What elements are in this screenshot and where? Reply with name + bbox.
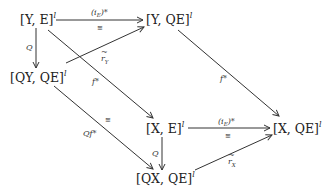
label-left-vertical: Q bbox=[26, 43, 33, 52]
svg-text:≅: ≅ bbox=[105, 116, 111, 124]
label-r-x: rX ~ bbox=[228, 151, 237, 168]
diagram-svg: [Y, E]l [Y, QE]l [QY, QE]l [X, E]l [X, Q… bbox=[0, 0, 324, 196]
node-X-E: [X, E]l bbox=[146, 120, 185, 136]
svg-text:≅: ≅ bbox=[225, 132, 231, 140]
svg-text:[QY, QE]l: [QY, QE]l bbox=[10, 69, 67, 85]
node-Y-QE: [Y, QE]l bbox=[146, 11, 193, 27]
label-f-star-left: f* bbox=[91, 77, 99, 86]
commutative-diagram: [Y, E]l [Y, QE]l [QY, QE]l [X, E]l [X, Q… bbox=[0, 0, 324, 196]
node-Y-E: [Y, E]l bbox=[20, 11, 56, 27]
node-QX-QE: [QX, QE]l bbox=[136, 170, 195, 186]
node-X-QE: [X, QE]l bbox=[273, 120, 322, 136]
svg-text:[Y, QE]l: [Y, QE]l bbox=[146, 11, 193, 27]
svg-text:[X, QE]l: [X, QE]l bbox=[273, 120, 322, 136]
svg-text:[X, E]l: [X, E]l bbox=[146, 120, 185, 136]
label-r-y: rY ~ bbox=[101, 48, 110, 65]
svg-text:~: ~ bbox=[101, 48, 108, 57]
svg-text:(iE)*: (iE)* bbox=[218, 117, 235, 127]
svg-text:[Y, E]l: [Y, E]l bbox=[20, 11, 56, 27]
svg-text:~: ~ bbox=[228, 151, 235, 160]
edge-qf-star bbox=[54, 86, 153, 169]
label-f-star-right: f* bbox=[219, 74, 227, 83]
label-right-vertical: Q bbox=[152, 149, 159, 158]
svg-text:≅: ≅ bbox=[97, 24, 103, 32]
svg-text:Qf*: Qf* bbox=[83, 129, 97, 138]
edge-f-star-right bbox=[178, 30, 279, 116]
node-QY-QE: [QY, QE]l bbox=[10, 69, 67, 85]
svg-text:(iE)*: (iE)* bbox=[91, 8, 108, 18]
label-qf-star: Qf* ≅ bbox=[83, 116, 111, 138]
svg-text:[QX, QE]l: [QX, QE]l bbox=[136, 170, 195, 186]
edge-r-y bbox=[66, 27, 144, 63]
